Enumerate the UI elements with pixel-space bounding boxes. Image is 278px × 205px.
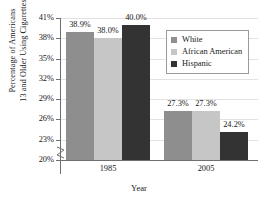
bar — [66, 32, 94, 160]
bar — [122, 25, 150, 160]
data-label: 27.3% — [192, 100, 220, 108]
legend-label-african-american: African American — [182, 48, 242, 56]
x-tick-label: 1985 — [88, 165, 128, 173]
y-tick-label: 38% — [14, 34, 54, 42]
bar — [164, 111, 192, 160]
x-tick-label: 2005 — [186, 165, 226, 173]
y-tick-label: 35% — [14, 55, 54, 63]
legend-label-hispanic: Hispanic — [182, 60, 212, 68]
y-tick-label: 41% — [14, 14, 54, 22]
legend-label-white: White — [182, 36, 202, 44]
bar — [220, 132, 248, 160]
legend-swatch-white — [171, 37, 177, 43]
data-label: 38.9% — [66, 21, 94, 29]
legend-item-white[interactable]: White — [171, 34, 242, 46]
y-tick-label: 26% — [14, 115, 54, 123]
data-label: 27.3% — [164, 100, 192, 108]
legend: White African American Hispanic — [166, 30, 249, 74]
axis-break-icon — [56, 146, 65, 160]
bar-chart: Percentage of Americans 13 and Older Usi… — [0, 0, 278, 205]
x-axis-line — [60, 160, 258, 161]
y-tick-label: 32% — [14, 75, 54, 83]
y-tick-label: 20% — [14, 156, 54, 164]
data-label: 38.0% — [94, 27, 122, 35]
legend-item-hispanic[interactable]: Hispanic — [171, 58, 242, 70]
bar — [192, 111, 220, 160]
legend-swatch-african-american — [171, 49, 177, 55]
y-tick-label: 29% — [14, 95, 54, 103]
data-label: 24.2% — [220, 121, 248, 129]
x-axis-title: Year — [0, 183, 278, 193]
legend-item-african-american[interactable]: African American — [171, 46, 242, 58]
legend-swatch-hispanic — [171, 61, 177, 67]
data-label: 40.0% — [122, 14, 150, 22]
y-tick-label: 23% — [14, 136, 54, 144]
bar — [94, 38, 122, 160]
y-axis-title: Percentage of Americans 13 and Older Usi… — [0, 0, 30, 175]
